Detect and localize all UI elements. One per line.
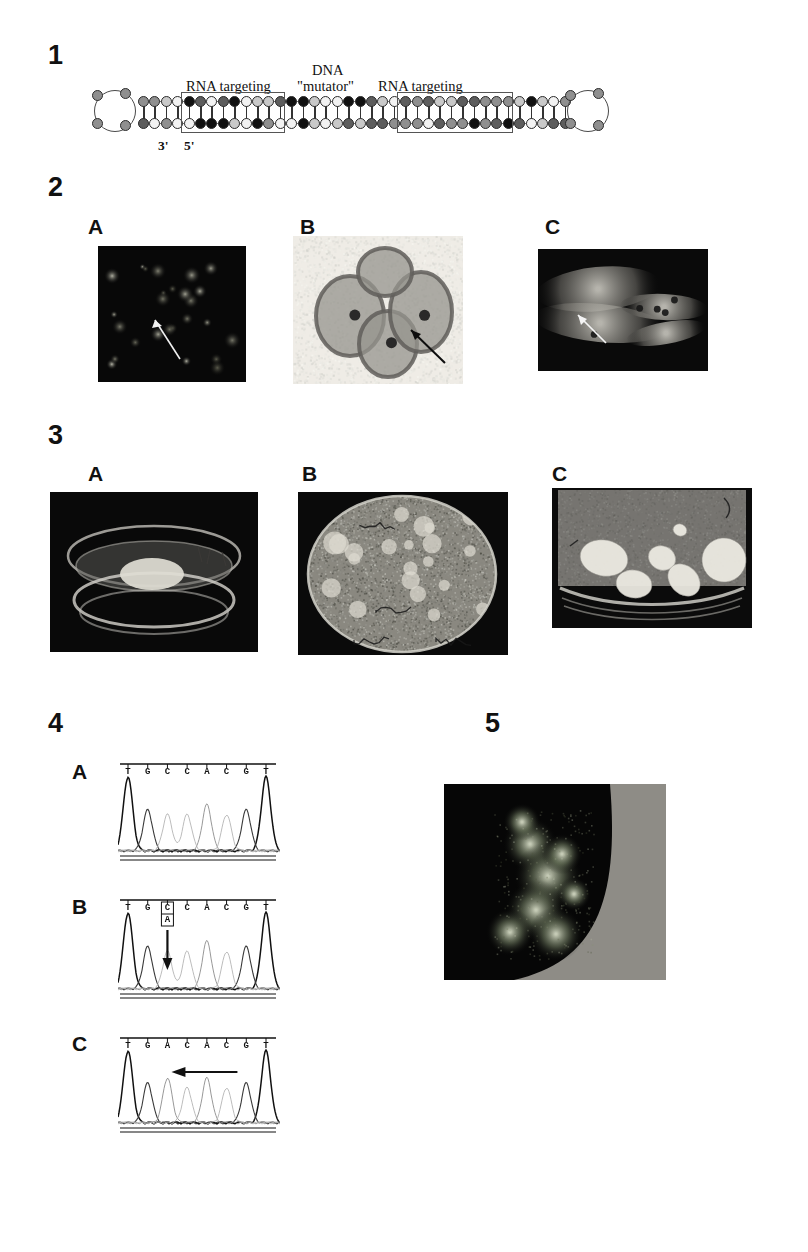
- figure-1-label-mutator: "mutator": [297, 78, 354, 95]
- figure-1-bottom-strand-bead: [286, 118, 297, 129]
- figure-4-panel-label-c: C: [72, 1032, 87, 1056]
- figure-1-bottom-strand-bead: [138, 118, 149, 129]
- figure-1-label-dna: DNA: [312, 62, 343, 79]
- figure-1-top-strand-bead: [298, 96, 309, 107]
- figure-4-panel-b-chromatogram: [118, 882, 280, 1006]
- figure-2-panel-c-image: [538, 249, 708, 371]
- figure-1-bottom-strand-bead: [366, 118, 377, 129]
- figure-1-terminal-bead: [593, 120, 604, 131]
- figure-number-3: 3: [48, 420, 63, 451]
- figure-1-bottom-strand-bead: [298, 118, 309, 129]
- figure-1-bottom-strand-bead: [332, 118, 343, 129]
- figure-1-top-strand-bead: [355, 96, 366, 107]
- figure-1-bottom-strand-bead: [526, 118, 537, 129]
- figure-1-bottom-strand-bead: [548, 118, 559, 129]
- figure-1-label-5prime: 5': [184, 138, 195, 154]
- figure-2-panel-a-image: [98, 246, 246, 382]
- figure-1-bottom-strand-bead: [377, 118, 388, 129]
- figure-number-5: 5: [485, 708, 500, 739]
- figure-3-panel-label-c: C: [552, 462, 567, 486]
- figure-3-panel-label-b: B: [302, 462, 317, 486]
- figure-1-label-3prime: 3': [158, 138, 169, 154]
- figure-1-bottom-strand-bead: [309, 118, 320, 129]
- figure-1-top-strand-bead: [537, 96, 548, 107]
- figure-3-panel-label-a: A: [88, 462, 103, 486]
- figure-1-top-strand-bead: [309, 96, 320, 107]
- figure-1-region-box-rna-left: [181, 92, 286, 133]
- figure-plate-page: 1 RNA targeting DNA "mutator" RNA target…: [0, 0, 808, 1252]
- figure-1-bottom-strand-bead: [537, 118, 548, 129]
- figure-1-terminal-bead: [120, 120, 131, 131]
- figure-1-bottom-strand-bead: [514, 118, 525, 129]
- figure-3-panel-c-image: [552, 488, 752, 628]
- figure-3-panel-b-image: [298, 492, 508, 655]
- figure-1-bottom-strand-bead: [355, 118, 366, 129]
- figure-1-bottom-strand-bead: [149, 118, 160, 129]
- figure-1-region-box-rna-right: [397, 92, 513, 133]
- figure-1-top-strand-bead: [332, 96, 343, 107]
- figure-1-bottom-strand-bead: [320, 118, 331, 129]
- figure-1-bottom-strand-bead: [161, 118, 172, 129]
- figure-1-bottom-strand-bead: [343, 118, 354, 129]
- figure-1-terminal-bead: [92, 90, 103, 101]
- figure-1-top-strand-bead: [366, 96, 377, 107]
- figure-1-top-strand-bead: [343, 96, 354, 107]
- figure-1-top-strand-bead: [138, 96, 149, 107]
- figure-4-panel-label-b: B: [72, 895, 87, 919]
- figure-1-schematic: RNA targeting DNA "mutator" RNA targetin…: [80, 60, 580, 165]
- figure-4-panel-label-a: A: [72, 760, 87, 784]
- figure-1-top-strand-bead: [286, 96, 297, 107]
- figure-number-2: 2: [48, 172, 63, 203]
- figure-4-panel-a-chromatogram: [118, 746, 280, 868]
- figure-2-panel-label-a: A: [88, 215, 103, 239]
- figure-1-top-strand-bead: [548, 96, 559, 107]
- figure-4-panel-c-chromatogram: [118, 1020, 280, 1140]
- figure-1-top-strand-bead: [514, 96, 525, 107]
- figure-3-panel-a-image: [50, 492, 258, 652]
- figure-1-terminal-bead: [92, 118, 103, 129]
- figure-number-4: 4: [48, 708, 63, 739]
- figure-2-panel-b-image: [293, 236, 463, 384]
- figure-2-panel-label-c: C: [545, 215, 560, 239]
- figure-1-terminal-bead: [120, 88, 131, 99]
- figure-5-image: [444, 784, 666, 980]
- figure-1-top-strand-bead: [149, 96, 160, 107]
- figure-1-top-strand-bead: [161, 96, 172, 107]
- figure-number-1: 1: [48, 40, 63, 71]
- figure-1-top-strand-bead: [320, 96, 331, 107]
- figure-1-top-strand-bead: [526, 96, 537, 107]
- figure-1-top-strand-bead: [377, 96, 388, 107]
